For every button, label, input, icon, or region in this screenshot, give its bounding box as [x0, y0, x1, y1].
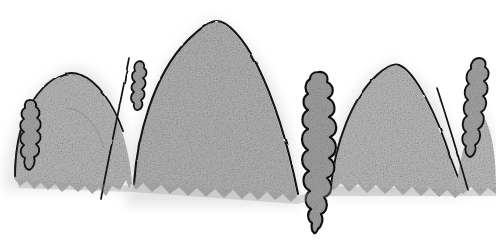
histology-illustration: [0, 0, 496, 249]
figure-root: Grayscale histological illustration of v…: [0, 0, 496, 249]
